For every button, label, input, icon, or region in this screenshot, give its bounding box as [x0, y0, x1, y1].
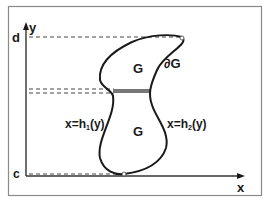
frame [9, 7, 262, 196]
label-g-upper: G [133, 61, 143, 76]
label-boundary: ∂G [164, 56, 181, 71]
label-c: c [13, 167, 20, 181]
bottom-point [122, 172, 126, 176]
diagram-canvas: d y c x G G ∂G x=h1(y) x=h2(y) [0, 0, 272, 201]
label-y: y [29, 20, 37, 35]
label-h1: x=h1(y) [65, 117, 105, 131]
label-d: d [12, 30, 20, 45]
label-h2: x=h2(y) [167, 117, 207, 131]
label-g-lower: G [133, 124, 143, 139]
horizontal-strip [113, 89, 150, 93]
label-x: x [237, 180, 245, 195]
x-axis-arrow-icon [237, 173, 245, 179]
top-point [180, 36, 184, 40]
